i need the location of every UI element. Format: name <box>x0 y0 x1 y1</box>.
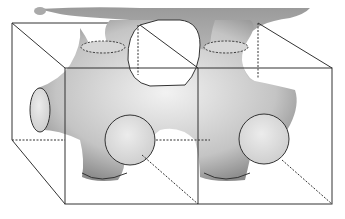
front-disk-left <box>105 115 155 165</box>
front-disk-right <box>239 114 289 164</box>
left-opening <box>30 88 50 132</box>
neck-ring-right <box>204 41 248 53</box>
top-opening <box>128 20 200 86</box>
diagram <box>0 0 345 219</box>
neck-ring-left <box>81 41 125 53</box>
unit-cell-figure <box>0 0 345 219</box>
